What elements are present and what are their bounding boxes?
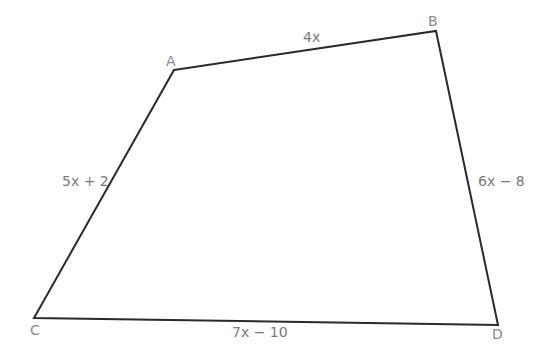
edge-label-ac: 5x + 2 (62, 173, 109, 189)
vertex-label-c: C (30, 322, 40, 338)
edge-label-ab: 4x (303, 29, 320, 45)
edge-label-bd: 6x − 8 (478, 173, 525, 189)
vertex-label-b: B (428, 13, 438, 29)
quadrilateral-diagram: A B C D 4x 5x + 2 6x − 8 7x − 10 (0, 0, 543, 361)
vertex-label-a: A (166, 53, 176, 69)
vertex-label-d: D (492, 326, 503, 342)
edge-label-cd: 7x − 10 (232, 324, 288, 340)
